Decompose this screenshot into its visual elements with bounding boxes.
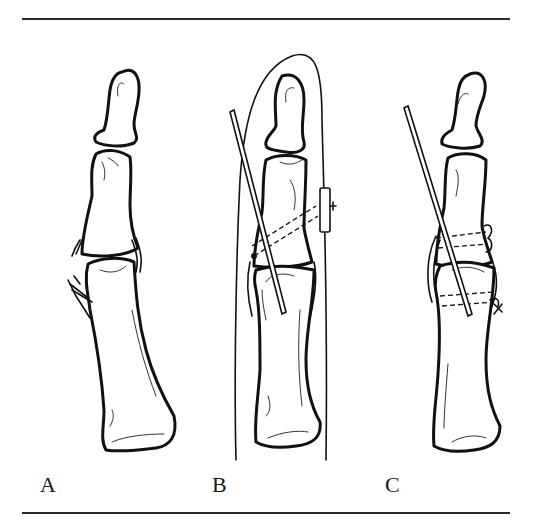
panel-label-a: A	[40, 472, 56, 498]
panel-c-drawing	[404, 73, 502, 451]
panel-b-drawing	[230, 54, 336, 460]
panel-a-drawing	[68, 70, 175, 451]
bottom-rule	[22, 512, 510, 514]
figure-illustration	[0, 0, 559, 528]
panel-label-b: B	[212, 472, 227, 498]
panel-label-c: C	[385, 472, 400, 498]
